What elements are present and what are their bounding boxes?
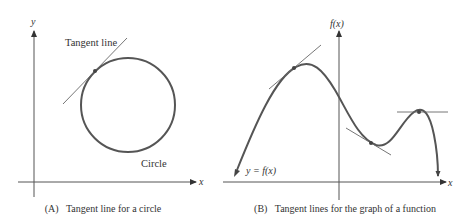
tangent-lines-figure: y x Tangent line Circle (A) Tangent line… — [0, 0, 470, 223]
panel-b-function-tangents: f(x) x y = f(x) (B) Tangent lines for th… — [223, 18, 453, 215]
circle-tangent-point — [93, 69, 97, 73]
panel-a-x-axis-label: x — [198, 176, 204, 187]
panel-b-y-axis-label: f(x) — [330, 18, 345, 30]
tangent-line-label: Tangent line — [65, 37, 117, 48]
curve-start-arrow — [234, 169, 240, 177]
panel-b-x-axis-label: x — [447, 177, 453, 188]
tangent-line-falling — [346, 128, 391, 155]
tangent-point-local-max — [417, 110, 421, 114]
circle-label: Circle — [141, 158, 167, 169]
tangent-point-rising — [292, 66, 296, 70]
panel-a-caption: (A) Tangent line for a circle — [45, 203, 162, 215]
function-curve — [237, 64, 438, 176]
curve-label: y = f(x) — [245, 165, 277, 177]
panel-a-circle-tangent: y x Tangent line Circle (A) Tangent line… — [18, 16, 204, 215]
panel-b-caption: (B) Tangent lines for the graph of a fun… — [254, 203, 436, 215]
panel-a-y-axis-label: y — [30, 16, 36, 27]
tangent-point-falling — [369, 141, 373, 145]
